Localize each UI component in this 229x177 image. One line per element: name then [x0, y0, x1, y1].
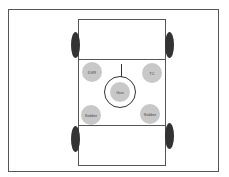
wheel-rear-right [165, 123, 174, 149]
wheel-front-left [71, 32, 80, 58]
seat-gun: Gun [110, 82, 130, 102]
seat-dvr: DVR [82, 62, 102, 82]
front-compartment-divider [78, 59, 166, 60]
rear-compartment-divider [78, 125, 166, 126]
seat-soldier-left: Soldier [81, 105, 101, 125]
seat-tc: TC [142, 63, 162, 83]
wheel-front-right [165, 32, 174, 58]
seat-soldier-right: Soldier [140, 104, 160, 124]
wheel-rear-left [71, 126, 80, 152]
